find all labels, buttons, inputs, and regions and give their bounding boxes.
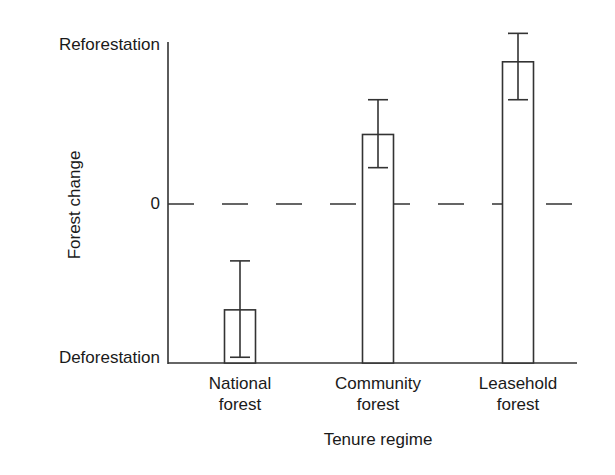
bars xyxy=(225,33,534,363)
x-category-national: National forest xyxy=(170,373,310,415)
y-tick-top: Reforestation xyxy=(0,35,160,55)
x-category-line: Community xyxy=(308,373,448,394)
x-axis-label: Tenure regime xyxy=(324,430,433,450)
x-category-leasehold: Leasehold forest xyxy=(448,373,588,415)
x-category-line: National xyxy=(170,373,310,394)
x-category-line: Leasehold xyxy=(448,373,588,394)
x-category-line: forest xyxy=(308,394,448,415)
bar-community xyxy=(363,134,394,363)
x-category-line: forest xyxy=(448,394,588,415)
x-category-line: forest xyxy=(170,394,310,415)
x-category-community: Community forest xyxy=(308,373,448,415)
y-tick-bottom: Deforestation xyxy=(0,348,160,368)
bar-leasehold xyxy=(503,62,534,363)
y-axis-label: Forest change xyxy=(65,151,85,260)
